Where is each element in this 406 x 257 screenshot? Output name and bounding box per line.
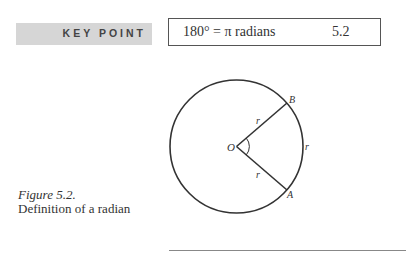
caption-number: Figure 5.2. (18, 188, 130, 202)
label-b: B (289, 94, 295, 105)
label-r-arc: r (305, 141, 309, 152)
radius-oa (237, 147, 288, 191)
label-a: A (286, 189, 294, 200)
figure-caption: Figure 5.2. Definition of a radian (18, 188, 130, 216)
label-r-lower: r (256, 169, 260, 180)
label-o: O (227, 141, 235, 153)
radius-ob (237, 103, 288, 147)
radian-diagram: O B A r r r (0, 0, 406, 257)
angle-arc (246, 138, 249, 155)
horizontal-rule (169, 250, 406, 251)
caption-text: Definition of a radian (18, 201, 130, 216)
label-r-upper: r (256, 115, 260, 126)
